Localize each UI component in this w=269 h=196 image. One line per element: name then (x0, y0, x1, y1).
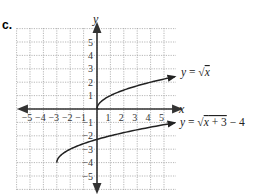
x-axis-label: x (178, 102, 185, 116)
x-tick-label: 5 (159, 112, 164, 123)
x-tick-label: 4 (146, 112, 151, 123)
y-tick-label: 1 (88, 90, 93, 101)
y-tick-label: 4 (88, 50, 93, 61)
part-label: c. (2, 18, 12, 32)
y-tick-label: 5 (88, 37, 93, 48)
x-tick-label: 3 (132, 112, 137, 123)
equation-label-sqrt-x: y = √x (180, 66, 211, 79)
x-tick-label: −3 (48, 112, 59, 123)
y-tick-label: 2 (88, 77, 93, 88)
x-tick-label: 1 (105, 112, 110, 123)
y-tick-label: −4 (82, 157, 93, 168)
y-tick-label: −2 (82, 130, 93, 141)
y-tick-label: −5 (82, 171, 93, 182)
curve-shifted-sqrt (57, 123, 175, 163)
y-tick-label: 3 (88, 63, 93, 74)
x-tick-label: −5 (22, 112, 33, 123)
equation-label-shifted-sqrt: y = √x + 3 − 4 (179, 116, 245, 129)
x-tick-label: 2 (119, 112, 124, 123)
curve-sqrt-x (97, 77, 175, 109)
y-axis-label: y (92, 12, 99, 26)
y-tick-label: −1 (82, 117, 93, 128)
square-root-graph: c. −5−4−3−2−11234554321−1−2−3−4−5 x y y … (0, 0, 269, 196)
y-tick-label: −3 (82, 144, 93, 155)
x-tick-label: −2 (62, 112, 73, 123)
x-tick-label: −4 (35, 112, 46, 123)
